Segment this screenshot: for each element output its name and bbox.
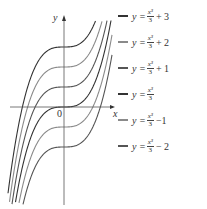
fraction: x³3	[147, 87, 154, 102]
fraction: x³3	[147, 9, 154, 24]
legend-prefix: y =	[132, 115, 146, 126]
legend-tail: + 3	[156, 11, 169, 22]
legend-item: y = x³3	[118, 84, 156, 104]
curve	[10, 21, 103, 202]
fraction: x³3	[147, 61, 154, 76]
legend-prefix: y =	[132, 11, 146, 22]
legend-item: y = x³3 − 2	[118, 136, 169, 156]
legend-swatch	[118, 93, 128, 95]
legend-item: y = x³3 + 2	[118, 32, 169, 52]
legend-tail: −1	[156, 115, 167, 126]
x-axis-label: x	[113, 108, 117, 119]
y-axis-label: y	[53, 12, 57, 23]
legend-prefix: y =	[132, 63, 146, 74]
curve	[23, 55, 112, 205]
legend-tail: − 2	[156, 141, 169, 152]
legend-prefix: y =	[132, 37, 146, 48]
plot-area	[0, 0, 207, 209]
curve	[16, 21, 112, 203]
legend-item: y = x³3 + 3	[118, 6, 169, 26]
fraction: x³3	[147, 35, 154, 50]
legend-swatch	[118, 67, 128, 69]
fraction: x³3	[147, 139, 154, 154]
legend-swatch	[118, 15, 128, 17]
legend-tail: + 2	[156, 37, 169, 48]
legend-prefix: y =	[132, 141, 146, 152]
legend-swatch	[118, 119, 128, 121]
legend-item: y = x³3 −1	[118, 110, 167, 130]
legend-swatch	[118, 41, 128, 43]
fraction: x³3	[147, 113, 154, 128]
legend-swatch	[118, 145, 128, 147]
legend-item: y = x³3 + 1	[118, 58, 169, 78]
legend-tail: + 1	[156, 63, 169, 74]
origin-label: 0	[57, 108, 62, 119]
legend-prefix: y =	[132, 89, 146, 100]
curve	[19, 35, 112, 203]
y-axis-arrow-icon	[62, 15, 66, 21]
